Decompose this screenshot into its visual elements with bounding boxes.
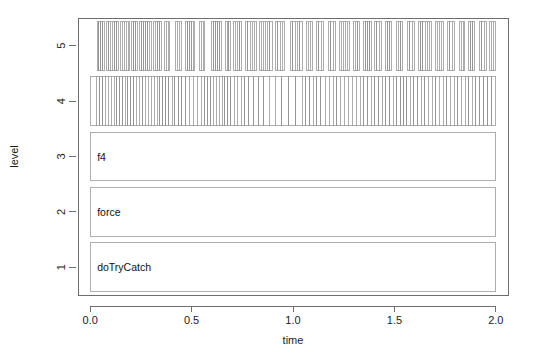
x-tick-label: 1.0: [285, 314, 300, 326]
profile-cell: [379, 21, 381, 70]
profile-cell: [306, 77, 310, 126]
profile-cell: [295, 21, 297, 70]
profile-cell: [189, 77, 193, 126]
profile-cell: [267, 21, 269, 70]
profile-cell: [398, 21, 400, 70]
profile-cell: [237, 21, 239, 70]
profile-cell: [172, 77, 175, 126]
profile-cell: [410, 77, 414, 126]
profile-cell: [472, 77, 476, 126]
profile-cell: [163, 77, 166, 126]
profile-cell: [216, 77, 219, 126]
profile-cell: [412, 21, 414, 70]
profile-cell: [452, 21, 454, 70]
profile-cell: [169, 77, 172, 126]
profile-cell: [461, 77, 465, 126]
profile-cell: [103, 21, 105, 70]
profile-cell: [193, 21, 195, 70]
profile-cell: [254, 77, 259, 126]
profile-cell: [249, 77, 254, 126]
profile-cell: [128, 21, 130, 70]
profile-cell: [245, 77, 249, 126]
profile-cell: [436, 77, 440, 126]
profile-cell: [344, 77, 348, 126]
y-tick-label: 2: [55, 209, 67, 215]
profile-cell: [418, 77, 422, 126]
profile-cell: [254, 21, 256, 70]
profile-cell: [484, 21, 486, 70]
profile-cell: [269, 77, 275, 126]
profile-cell: [120, 77, 123, 126]
x-tick-label: 2.0: [488, 314, 503, 326]
profile-plot: 12345 0.00.51.01.52.0 doTryCatchforcef4 …: [0, 0, 535, 354]
profile-cell: [186, 77, 190, 126]
profile-cell: [352, 77, 356, 126]
profile-cell: [401, 77, 404, 126]
profile-cell: [371, 77, 375, 126]
profile-cell: [428, 77, 432, 126]
plot-canvas: 12345 0.00.51.01.52.0 doTryCatchforcef4 …: [0, 0, 535, 354]
profile-cell: [386, 77, 390, 126]
profile-cell: [160, 77, 163, 126]
profile-cell: [136, 77, 139, 126]
profile-cell: [103, 77, 106, 126]
profile-cell: [197, 77, 201, 126]
profile-cell: [203, 21, 205, 70]
profile-cell: [297, 21, 299, 70]
profile-cell: [410, 21, 412, 70]
profile-cell: [463, 21, 464, 70]
profile-cell: [280, 21, 282, 70]
profile-cell: [393, 77, 397, 126]
profile-cell: [390, 21, 392, 70]
profile-cell: [423, 21, 425, 70]
profile-cell-label: doTryCatch: [97, 261, 151, 273]
profile-cell: [493, 21, 495, 70]
profile-cell: [397, 77, 401, 126]
profile-cell: [114, 77, 117, 126]
profile-cell: [432, 77, 436, 126]
profile-cell: [179, 21, 181, 70]
profile-cell: [375, 77, 379, 126]
profile-cell: [259, 77, 264, 126]
profile-cell: [160, 21, 162, 70]
profile-cell: [379, 77, 383, 126]
profile-cell: [270, 21, 272, 70]
profile-cell: [157, 77, 160, 126]
profile-cell: [465, 77, 469, 126]
profile-cell-label: force: [97, 206, 121, 218]
profile-cell: [289, 77, 296, 126]
profile-cell: [454, 77, 458, 126]
profile-cell: [340, 77, 344, 126]
y-tick-label: 1: [55, 264, 67, 270]
profile-cell: [390, 77, 394, 126]
profile-cell: [117, 77, 120, 126]
profile-cell: [193, 77, 197, 126]
profile-cell: [90, 77, 96, 126]
profile-cell: [377, 21, 379, 70]
profile-cell: [348, 77, 352, 126]
profile-cell: [201, 77, 205, 126]
profile-cell: [368, 77, 372, 126]
profile-cell: [421, 77, 425, 126]
profile-cell: [275, 77, 281, 126]
profile-cell: [310, 77, 314, 126]
profile-cell: [175, 77, 179, 126]
profile-cell: [264, 77, 270, 126]
profile-cell: [240, 21, 242, 70]
profile-cell: [168, 21, 170, 70]
profile-cell: [414, 77, 418, 126]
profile-cell: [145, 77, 148, 126]
profile-cell: [211, 77, 214, 126]
profile-cell: [360, 77, 364, 126]
profile-cell: [229, 21, 230, 70]
profile-cell: [293, 21, 295, 70]
profile-cell: [458, 77, 462, 126]
profile-cell: [154, 77, 157, 126]
profile-cell: [302, 77, 306, 126]
profile-cells: [90, 21, 496, 291]
profile-cell: [482, 21, 484, 70]
profile-cell: [131, 77, 134, 126]
profile-cell: [282, 21, 284, 70]
profile-cell: [425, 77, 429, 126]
profile-cell: [90, 132, 496, 181]
